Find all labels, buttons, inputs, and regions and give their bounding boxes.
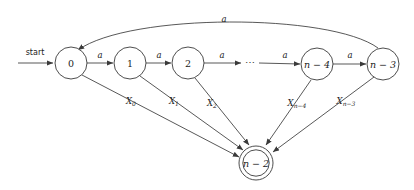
state-node-n-minus-3[interactable]: n − 3 — [367, 48, 399, 80]
start-label: start — [26, 48, 45, 57]
start-arrow-group: start — [18, 48, 53, 64]
return-arc-label: a — [221, 14, 226, 24]
transition-ellipsis-to-n4 — [259, 63, 300, 64]
transition-label-0-to-1: a — [97, 50, 102, 60]
accept-edge-from-n4 — [266, 80, 311, 145]
state-label-n-minus-2: n − 2 — [243, 158, 269, 169]
accept-edge-label-x0: X0 — [125, 96, 136, 107]
state-node-n-minus-4[interactable]: n − 4 — [301, 48, 333, 80]
transition-label-1-to-2: a — [156, 50, 161, 60]
transition-label-n4-to-n3: a — [347, 50, 352, 60]
state-node-2[interactable]: 2 — [172, 47, 204, 79]
accept-edge-label-xn3: Xn−3 — [336, 96, 356, 107]
state-label-1: 1 — [127, 58, 133, 69]
accept-edge-from-n3 — [273, 77, 374, 152]
state-label-n-minus-3: n − 3 — [370, 59, 396, 70]
transition-label-ellipsis-to-n4: a — [282, 50, 287, 60]
accept-edge-label-x1-sub: 1 — [175, 99, 179, 106]
accept-edge-label-x2: X2 — [206, 98, 217, 109]
state-label-2: 2 — [185, 58, 191, 69]
accept-edge-label-x1: X1 — [168, 96, 179, 107]
automaton-canvas: start a a a ⋯ a a a — [0, 0, 414, 190]
accept-edge-label-xn4: Xn−4 — [287, 98, 307, 109]
state-node-1[interactable]: 1 — [114, 47, 146, 79]
return-arc-n3-to-0 — [78, 22, 378, 50]
state-node-n-minus-2-accepting[interactable]: n − 2 — [239, 146, 273, 180]
state-label-n-minus-4: n − 4 — [304, 59, 330, 70]
state-label-0: 0 — [68, 58, 74, 69]
automaton-diagram: start a a a ⋯ a a a — [0, 0, 414, 190]
return-arc-group: a — [78, 14, 378, 51]
transition-label-2-to-ellipsis: a — [219, 50, 224, 60]
accept-edge-from-0 — [82, 75, 239, 157]
accept-transitions: X0 X1 X2 Xn−4 Xn−3 — [82, 75, 374, 157]
accept-edge-label-x2-sub: 2 — [212, 101, 217, 108]
accept-edge-label-x0-sub: 0 — [132, 99, 136, 106]
accept-edge-label-xn4-sub: n−4 — [294, 101, 307, 108]
state-node-0[interactable]: 0 — [55, 47, 87, 79]
ellipsis-icon: ⋯ — [245, 57, 256, 68]
accept-edge-label-xn3-sub: n−3 — [343, 99, 356, 106]
